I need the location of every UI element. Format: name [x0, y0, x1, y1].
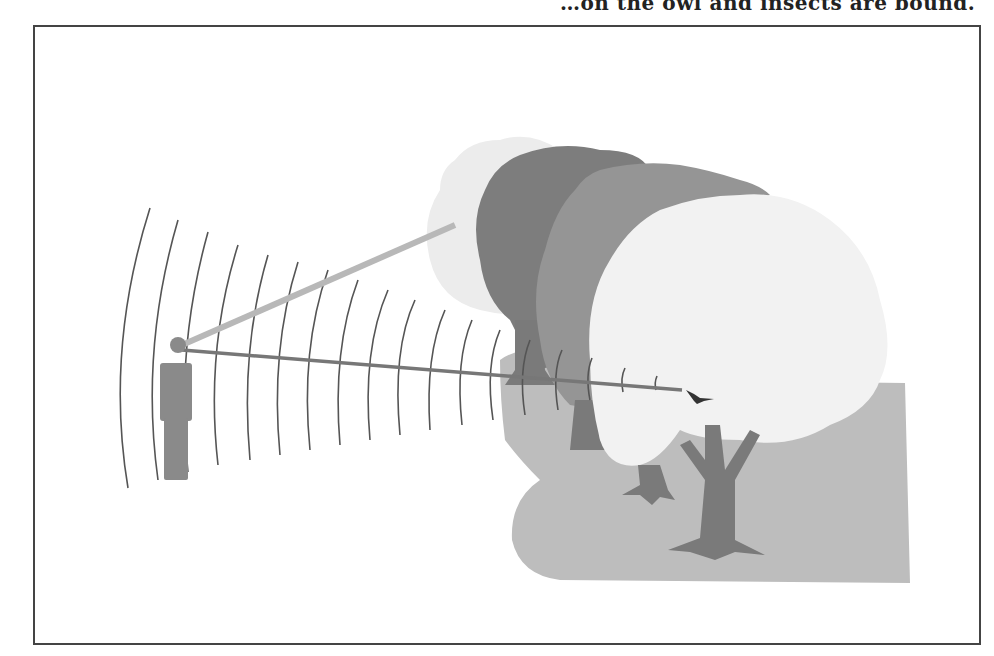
illustration [0, 0, 994, 656]
observer-figure [160, 337, 192, 480]
sight-line [182, 225, 455, 345]
